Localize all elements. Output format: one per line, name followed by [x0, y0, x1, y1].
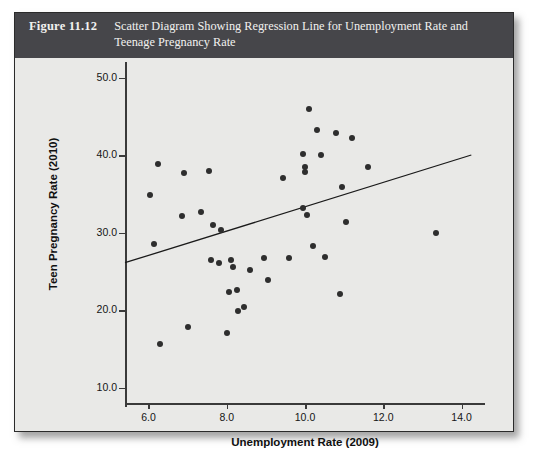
scatter-point — [157, 341, 163, 347]
figure-caption-bar: Figure 11.12 Scatter Diagram Showing Reg… — [15, 13, 513, 58]
scatter-point — [218, 227, 224, 233]
scatter-point — [147, 192, 153, 198]
scatter-point — [365, 164, 371, 170]
scatter-point — [216, 260, 222, 266]
scatter-point — [322, 254, 328, 260]
scatter-point — [433, 230, 439, 236]
scatter-point — [300, 205, 306, 211]
scatter-point — [224, 330, 230, 336]
scatter-point — [302, 169, 308, 175]
scatter-point — [234, 287, 240, 293]
scatter-point — [228, 257, 234, 263]
scatter-point — [286, 255, 292, 261]
scatter-point — [241, 304, 247, 310]
scatter-point — [280, 175, 286, 181]
scatter-point — [230, 264, 236, 270]
figure-title: Scatter Diagram Showing Regression Line … — [114, 18, 474, 50]
scatter-point — [261, 255, 267, 261]
scatter-point — [151, 241, 157, 247]
scatter-point — [226, 289, 232, 295]
plot-panel: 10.020.030.040.050.0 6.08.010.012.014.0 … — [15, 58, 513, 431]
scatter-point — [337, 291, 343, 297]
scatter-point — [349, 135, 355, 141]
scatter-point — [181, 170, 187, 176]
scatter-point — [265, 277, 271, 283]
scatter-point — [339, 184, 345, 190]
scatter-point — [343, 219, 349, 225]
scatter-point — [304, 212, 310, 218]
x-axis-title: Unemployment Rate (2009) — [125, 436, 485, 448]
figure-container: Figure 11.12 Scatter Diagram Showing Reg… — [14, 12, 514, 432]
scatter-point — [333, 130, 339, 136]
scatter-point — [210, 222, 216, 228]
scatter-point — [155, 161, 161, 167]
scatter-point — [314, 127, 320, 133]
scatter-point — [198, 209, 204, 215]
scatter-point — [208, 257, 214, 263]
scatter-point — [247, 267, 253, 273]
scatter-point — [300, 151, 306, 157]
scatter-point — [179, 213, 185, 219]
scatter-points-layer — [15, 58, 513, 431]
scatter-point — [206, 168, 212, 174]
scatter-point — [318, 152, 324, 158]
scatter-point — [306, 106, 312, 112]
scatter-point — [185, 324, 191, 330]
scatter-point — [310, 243, 316, 249]
figure-number: Figure 11.12 — [29, 18, 97, 34]
